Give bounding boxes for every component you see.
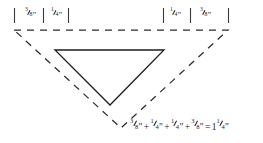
fraction-three-eighths: 38 bbox=[25, 9, 32, 18]
fraction-one-quarter: 14 bbox=[170, 9, 177, 18]
measure-label-right-3-8: 38" bbox=[200, 9, 211, 19]
measure-label-left-3-8: 38" bbox=[25, 9, 36, 19]
measurement-diagram: 38" 14" 14" 38" 38"+14"+14"+38"=114" bbox=[0, 0, 263, 143]
measure-label-left-1-4: 14" bbox=[51, 9, 62, 19]
equation-term-2: 14 bbox=[150, 120, 158, 130]
ruler-ticks bbox=[15, 8, 229, 23]
plus-operator: + bbox=[183, 122, 191, 132]
equation-term-1: 38 bbox=[130, 120, 138, 130]
sum-equation: 38"+14"+14"+38"=114" bbox=[130, 120, 229, 132]
equation-term-4: 38 bbox=[191, 120, 199, 130]
fraction-one-quarter: 14 bbox=[51, 9, 58, 18]
solid-inner-triangle bbox=[55, 50, 164, 105]
result-fraction: 14 bbox=[217, 120, 225, 130]
inch-mark: " bbox=[177, 10, 181, 20]
measure-label-right-1-4: 14" bbox=[170, 9, 181, 19]
plus-operator: + bbox=[142, 122, 150, 132]
equation-term-3: 14 bbox=[171, 120, 179, 130]
inch-mark: " bbox=[207, 10, 211, 20]
inch-mark: " bbox=[32, 10, 36, 20]
dashed-outer-triangle bbox=[14, 30, 228, 128]
equals-operator: = bbox=[204, 122, 212, 132]
plus-operator: + bbox=[163, 122, 171, 132]
inch-mark: " bbox=[58, 10, 62, 20]
fraction-three-eighths: 38 bbox=[200, 9, 207, 18]
